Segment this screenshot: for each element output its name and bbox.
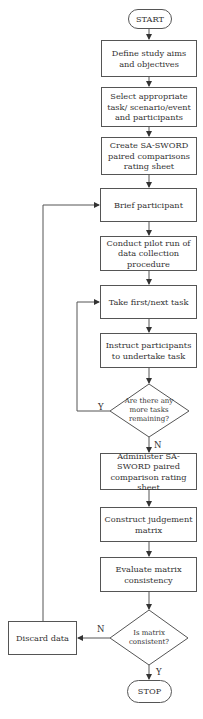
step-create-sheet: Create SA-SWORD paired comparisons ratin… xyxy=(101,137,197,175)
step-pilot-run: Conduct pilot run of data collection pro… xyxy=(100,236,197,271)
stop-label: STOP xyxy=(138,686,161,697)
no-label: N xyxy=(97,624,104,634)
step-label: Create SA-SWORD paired comparisons ratin… xyxy=(104,140,194,172)
no-label: N xyxy=(154,440,161,450)
stop-terminal: STOP xyxy=(127,680,172,703)
step-label: Administer SA-SWORD paired comparison ra… xyxy=(103,451,194,493)
step-evaluate-consistency: Evaluate matrix consistency xyxy=(100,557,197,592)
step-label: Evaluate matrix consistency xyxy=(103,564,194,585)
step-administer-sheet: Administer SA-SWORD paired comparison ra… xyxy=(100,453,197,490)
start-label: START xyxy=(136,14,164,25)
step-label: Take first/next task xyxy=(109,297,189,308)
step-define-aims: Define study aims and objectives xyxy=(101,40,197,77)
step-label: Conduct pilot run of data collection pro… xyxy=(103,238,194,270)
step-brief-participant: Brief participant xyxy=(100,188,197,222)
discard-data-box: Discard data xyxy=(8,621,77,655)
step-instruct-participants: Instruct participants to undertake task xyxy=(100,333,197,368)
step-label: Define study aims and objectives xyxy=(104,48,194,69)
step-select-task: Select appropriate task/ scenario/event … xyxy=(101,87,197,127)
yes-label: Y xyxy=(98,402,104,412)
discard-label: Discard data xyxy=(16,633,69,644)
step-label: Brief participant xyxy=(114,200,183,211)
decision-more-tasks: Are there any more tasks remaining? xyxy=(118,397,180,424)
decision-matrix-consistent: Is matrix consistent? xyxy=(122,629,176,647)
step-construct-matrix: Construct judgement matrix xyxy=(100,507,197,542)
step-label: Select appropriate task/ scenario/event … xyxy=(104,91,194,123)
step-label: Instruct participants to undertake task xyxy=(103,340,194,361)
step-take-task: Take first/next task xyxy=(100,285,197,319)
step-label: Construct judgement matrix xyxy=(103,514,194,535)
yes-label: Y xyxy=(156,667,162,677)
start-terminal: START xyxy=(128,9,172,29)
